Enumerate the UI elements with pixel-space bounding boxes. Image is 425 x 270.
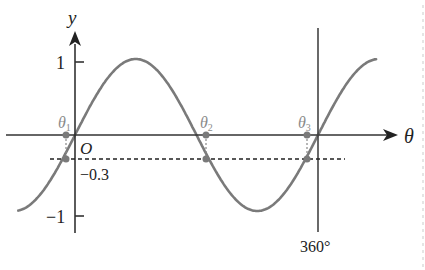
- y-tick-label-1: 1: [56, 53, 65, 73]
- reference-label-minus-0-3: −0.3: [80, 166, 109, 183]
- y-axis-arrow-icon: [69, 31, 81, 46]
- theta1-label: θ1: [58, 114, 71, 133]
- sine-graph: y θ O 1 −1 −0.3 360° θ1 θ2 θ3: [0, 0, 425, 270]
- theta-axis-label: θ: [404, 125, 414, 147]
- solution-theta3: [304, 132, 311, 163]
- y-axis-label: y: [66, 7, 77, 28]
- theta2-label: θ2: [200, 114, 213, 133]
- x-tick-label-360: 360°: [300, 238, 330, 255]
- origin-label: O: [80, 139, 92, 158]
- theta3-label: θ3: [298, 114, 311, 133]
- y-tick-label-minus-1: −1: [46, 207, 65, 227]
